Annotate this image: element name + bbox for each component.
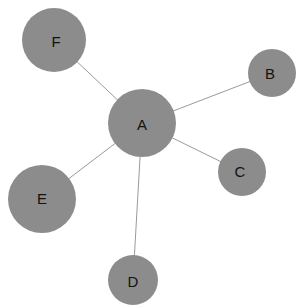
node-c[interactable]: C xyxy=(218,148,266,196)
node-circle-e[interactable] xyxy=(8,165,76,233)
node-circle-d[interactable] xyxy=(108,255,158,305)
node-circle-c[interactable] xyxy=(218,148,266,196)
network-graph-canvas: ABCDEF xyxy=(0,0,302,307)
node-circle-b[interactable] xyxy=(248,49,296,97)
node-layer: ABCDEF xyxy=(8,8,296,305)
node-b[interactable]: B xyxy=(248,49,296,97)
node-a[interactable]: A xyxy=(108,89,176,157)
network-graph-svg: ABCDEF xyxy=(0,0,302,307)
node-circle-a[interactable] xyxy=(108,89,176,157)
node-circle-f[interactable] xyxy=(22,8,86,72)
node-f[interactable]: F xyxy=(22,8,86,72)
node-e[interactable]: E xyxy=(8,165,76,233)
node-d[interactable]: D xyxy=(108,255,158,305)
